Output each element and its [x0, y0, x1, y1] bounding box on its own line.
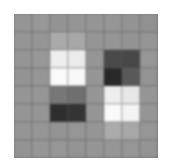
heatmap-cell: [68, 14, 86, 32]
heatmap-cell: [104, 50, 122, 68]
heatmap-cell: [140, 14, 158, 32]
heatmap-cell: [68, 122, 86, 140]
heatmap-cell: [14, 86, 32, 104]
heatmap-cell: [32, 32, 50, 50]
heatmap-cell: [14, 32, 32, 50]
heatmap-cell: [86, 68, 104, 86]
heatmap-cell: [122, 104, 140, 122]
heatmap-cell: [32, 50, 50, 68]
heatmap-cell: [104, 32, 122, 50]
heatmap-cell: [50, 104, 68, 122]
heatmap-cell: [140, 122, 158, 140]
heatmap-cell: [122, 32, 140, 50]
heatmap-cell: [68, 104, 86, 122]
heatmap-cell: [86, 140, 104, 158]
heatmap-cell: [104, 122, 122, 140]
heatmap-cell: [104, 104, 122, 122]
heatmap-figure: [0, 0, 170, 168]
heatmap-cell: [86, 14, 104, 32]
heatmap-cell: [86, 50, 104, 68]
heatmap-cell: [50, 68, 68, 86]
heatmap-cell: [14, 68, 32, 86]
heatmap-cell: [50, 86, 68, 104]
heatmap-cell: [14, 140, 32, 158]
heatmap-cell: [140, 140, 158, 158]
heatmap-cell: [86, 122, 104, 140]
heatmap-cell: [68, 140, 86, 158]
heatmap-cell: [122, 140, 140, 158]
heatmap-cell: [14, 122, 32, 140]
heatmap-cell: [122, 68, 140, 86]
heatmap-cell: [50, 14, 68, 32]
heatmap-cell: [140, 104, 158, 122]
heatmap-cell: [50, 122, 68, 140]
heatmap-cell: [86, 104, 104, 122]
heatmap-cell: [68, 86, 86, 104]
heatmap-cell: [32, 86, 50, 104]
heatmap-cell: [122, 86, 140, 104]
heatmap-cell: [32, 140, 50, 158]
heatmap-cell: [122, 14, 140, 32]
heatmap-cell: [32, 14, 50, 32]
heatmap-cell: [14, 14, 32, 32]
heatmap-cell: [122, 122, 140, 140]
heatmap-grid: [14, 14, 158, 158]
heatmap-cell: [104, 86, 122, 104]
heatmap-cell: [50, 140, 68, 158]
heatmap-cell: [68, 32, 86, 50]
heatmap-cell: [140, 32, 158, 50]
heatmap-cell: [140, 86, 158, 104]
heatmap-cell: [86, 86, 104, 104]
heatmap-cell: [50, 50, 68, 68]
heatmap-cell: [68, 50, 86, 68]
heatmap-cell: [104, 14, 122, 32]
heatmap-cell: [32, 122, 50, 140]
heatmap-cell: [32, 104, 50, 122]
heatmap-cell: [86, 32, 104, 50]
heatmap-cell: [140, 68, 158, 86]
heatmap-cell: [104, 140, 122, 158]
heatmap-cell: [122, 50, 140, 68]
heatmap-cell: [68, 68, 86, 86]
heatmap-cell: [32, 68, 50, 86]
heatmap-cell: [14, 50, 32, 68]
heatmap-cell: [50, 32, 68, 50]
heatmap-cell: [140, 50, 158, 68]
heatmap-cell: [104, 68, 122, 86]
heatmap-cell: [14, 104, 32, 122]
